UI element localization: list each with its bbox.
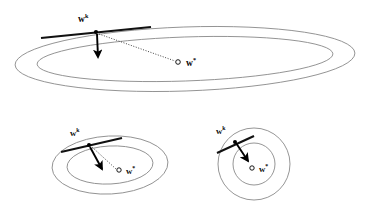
contour-inner-bottom-left <box>66 144 154 186</box>
optimum-marker-bottom-right <box>250 166 254 170</box>
tangent-line-bottom-right <box>217 136 254 153</box>
gradient-arrow-top <box>97 34 98 57</box>
contour-outer-bottom-left <box>51 133 170 197</box>
label-wstar-bottom-right: w* <box>259 163 268 174</box>
current-point-marker-top <box>94 30 98 34</box>
optimization-contours-diagram: wk w* wk w* <box>0 0 369 215</box>
current-point-marker-bottom-right <box>233 140 237 144</box>
bottom-left-panel: wk w* <box>51 127 170 197</box>
label-wstar-bottom-left: w* <box>126 165 135 176</box>
current-point-marker-bottom-left <box>87 143 91 147</box>
contour-inner-top <box>36 32 333 86</box>
optimum-marker-top <box>176 60 181 65</box>
bottom-right-panel: wk w* <box>216 125 290 200</box>
label-wstar-top: w* <box>186 56 196 68</box>
label-wk-top: wk <box>78 12 89 24</box>
label-wk-bottom-right: wk <box>216 125 226 136</box>
gradient-arrow-bottom-right <box>236 143 248 161</box>
contour-outer-bottom-right <box>218 128 290 200</box>
optimum-marker-bottom-left <box>117 168 121 172</box>
contour-outer-top <box>14 21 356 97</box>
top-panel: wk w* <box>14 12 356 97</box>
label-wk-bottom-left: wk <box>70 127 80 138</box>
figure-root: wk w* wk w* <box>0 0 369 215</box>
gradient-arrow-bottom-left <box>90 147 102 169</box>
